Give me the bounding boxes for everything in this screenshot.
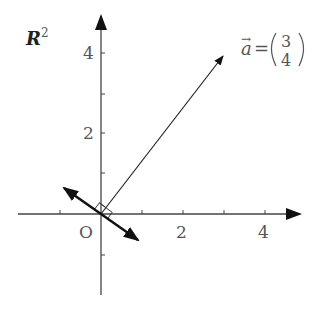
y-tick-label-2: 2 bbox=[83, 123, 94, 143]
x-tick-label-4: 4 bbox=[258, 222, 269, 242]
svg-text:=: = bbox=[254, 38, 269, 59]
svg-text:3: 3 bbox=[281, 32, 291, 51]
normal-vector-arrow-2 bbox=[64, 188, 101, 214]
vector-diagram: 2 4 2 4 O R2 a → = 3 4 bbox=[0, 0, 325, 310]
vector-a-arrow bbox=[101, 56, 223, 214]
normal-vector-arrow-1 bbox=[101, 214, 138, 240]
svg-text:4: 4 bbox=[281, 51, 291, 70]
origin-label: O bbox=[79, 222, 93, 242]
x-tick-label-2: 2 bbox=[176, 222, 187, 242]
space-label: R2 bbox=[25, 26, 49, 49]
y-tick-label-4: 4 bbox=[83, 43, 94, 63]
vector-a-label: a → = 3 4 bbox=[241, 32, 304, 70]
svg-text:→: → bbox=[241, 32, 251, 46]
